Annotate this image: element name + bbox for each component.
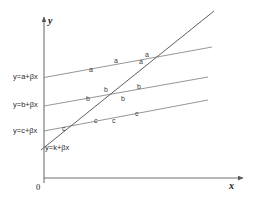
data-point-c: c — [112, 117, 116, 124]
line-label-c: y=c+βx — [13, 127, 37, 135]
line-label-k: y=k+βx — [45, 144, 69, 152]
data-point-c: c — [62, 125, 66, 132]
x-axis-label: x — [229, 181, 234, 191]
regression-lines-diagram: y x 0 y=a+βx y=b+βx y=c+βx y=k+βx a a a … — [0, 0, 260, 202]
data-point-a: a — [89, 66, 93, 73]
data-point-b: b — [86, 95, 90, 102]
line-label-a: y=a+βx — [13, 73, 38, 81]
data-point-b: b — [104, 86, 108, 93]
data-point-c: c — [135, 110, 139, 117]
data-point-a: a — [145, 51, 149, 58]
line-label-b: y=b+βx — [13, 101, 38, 109]
regression-line-c — [44, 100, 208, 131]
y-axis-label: y — [48, 16, 52, 26]
regression-line-a — [44, 47, 212, 78]
data-point-a: a — [139, 58, 143, 65]
data-point-a: a — [114, 57, 118, 64]
data-point-b: b — [137, 83, 141, 90]
origin-label: 0 — [36, 183, 40, 192]
plot-canvas — [0, 0, 260, 202]
data-point-c: c — [94, 117, 98, 124]
data-point-b: b — [121, 95, 125, 102]
